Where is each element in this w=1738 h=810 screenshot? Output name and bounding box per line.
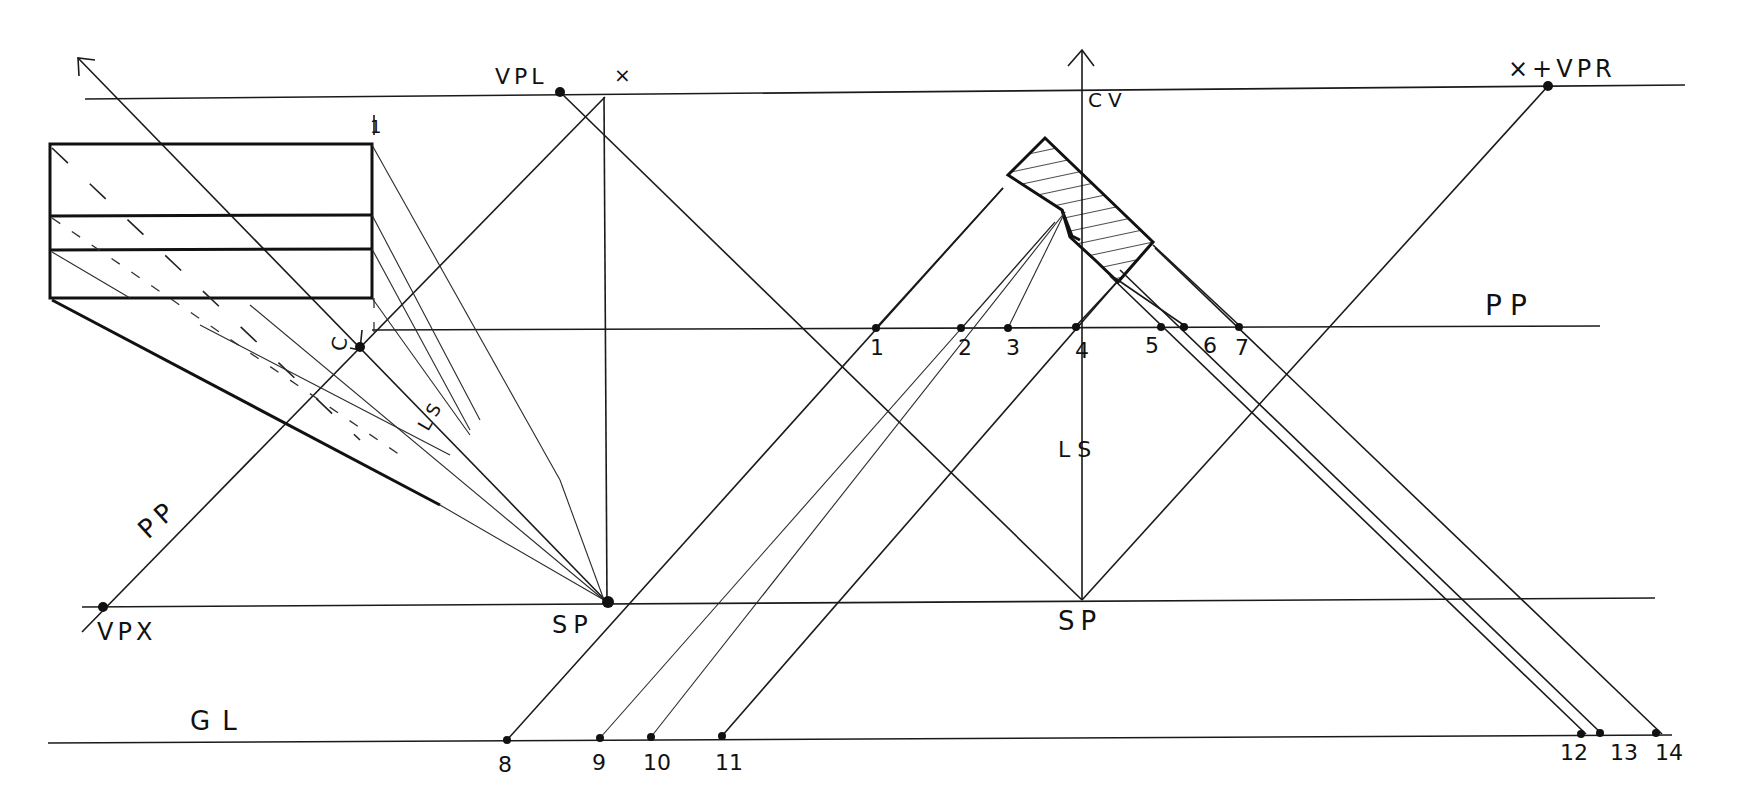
pp-num-7: 7 xyxy=(1235,335,1249,360)
one-label: 1 xyxy=(370,116,381,137)
gl-point-12 xyxy=(1577,730,1585,738)
pp-point-4 xyxy=(1072,323,1080,331)
gl-num-10: 10 xyxy=(643,750,671,775)
ls-center-label: L S xyxy=(1058,437,1091,462)
ray-b xyxy=(372,215,480,420)
gl-num-8: 8 xyxy=(498,752,512,777)
pp-point-6 xyxy=(1180,323,1188,331)
elevation-box xyxy=(50,144,372,298)
line-to-8 xyxy=(507,188,1003,740)
line-to-11 xyxy=(722,282,1117,736)
gl-point-9 xyxy=(596,734,604,742)
ray-mid-1 xyxy=(250,305,604,600)
vpx-point xyxy=(98,602,108,612)
line-to-9 xyxy=(600,222,1055,738)
cv-label: CV xyxy=(1088,88,1128,112)
c-label: C xyxy=(326,335,352,353)
horizon-line xyxy=(85,85,1685,99)
proj-56 xyxy=(1115,278,1188,328)
pp-num-1: 1 xyxy=(870,335,884,360)
line-to-10 xyxy=(651,212,1065,737)
line-to-12 xyxy=(1110,276,1586,734)
ground-line xyxy=(48,735,1672,743)
pp-point-2 xyxy=(957,324,965,332)
ray-bottom-tail xyxy=(440,505,604,600)
sp-left-point xyxy=(602,596,614,608)
pp-point-7 xyxy=(1235,323,1243,331)
line-to-13 xyxy=(1120,270,1602,734)
vpl-point xyxy=(555,87,565,97)
pp-point-1 xyxy=(872,324,880,332)
vpr-label: ×+VPR xyxy=(1508,55,1616,83)
hidden-line-3 xyxy=(52,252,130,298)
gl-point-13 xyxy=(1596,729,1604,737)
pp-num-2: 2 xyxy=(958,335,972,360)
picture-plane-line xyxy=(372,326,1600,330)
ls-left-label: LS xyxy=(413,395,448,434)
gl-point-8 xyxy=(503,736,511,744)
ray-mid-2 xyxy=(200,325,450,455)
gl-point-11 xyxy=(718,732,726,740)
gl-num-11: 11 xyxy=(715,750,743,775)
line-to-14 xyxy=(1155,248,1662,734)
gl-num-9: 9 xyxy=(592,750,606,775)
pp-point-3 xyxy=(1004,324,1012,332)
pp-num-6: 6 xyxy=(1203,333,1217,358)
elevation-band-top xyxy=(50,215,372,216)
pp-num-3: 3 xyxy=(1006,335,1020,360)
rotated-picture-plane xyxy=(82,97,605,632)
c-point xyxy=(355,342,365,352)
x-label: × xyxy=(614,63,631,87)
gl-label: GL xyxy=(190,706,249,736)
station-point-line xyxy=(82,598,1655,607)
ray-c xyxy=(372,249,470,430)
perspective-diagram: VPL × ×+VPR CV PP L S SP SP VPX GL PP LS… xyxy=(0,0,1738,810)
pp-right-label: PP xyxy=(1485,289,1535,322)
pp-point-5 xyxy=(1157,323,1165,331)
cv-arrow-icon xyxy=(1068,50,1094,66)
gl-num-12: 12 xyxy=(1560,740,1588,765)
obj-to-3 xyxy=(1008,212,1065,328)
gl-point-14 xyxy=(1652,729,1660,737)
plan-object-hatched xyxy=(1008,138,1153,282)
gl-num-14: 14 xyxy=(1655,740,1683,765)
gl-point-10 xyxy=(647,733,655,741)
x-vertical xyxy=(604,97,607,603)
vpl-to-sp-line xyxy=(560,92,1082,600)
pp-left-label: PP xyxy=(132,493,184,544)
pp-num-4: 4 xyxy=(1075,338,1089,363)
gl-num-13: 13 xyxy=(1610,740,1638,765)
vpx-label: VPX xyxy=(97,618,156,646)
vpl-label: VPL xyxy=(495,64,548,89)
sp-left-label: SP xyxy=(552,611,594,639)
pp-num-5: 5 xyxy=(1145,333,1159,358)
sp-center-label: SP xyxy=(1058,606,1102,636)
